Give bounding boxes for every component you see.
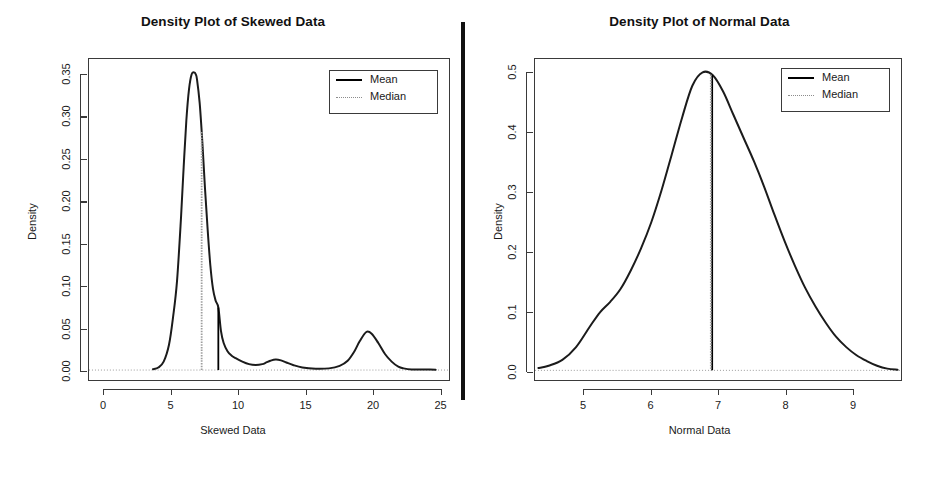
legend-item-mean: Mean — [330, 71, 437, 88]
y-tick-mark — [81, 286, 87, 287]
density-line — [538, 72, 897, 370]
y-tick-mark — [527, 192, 533, 193]
y-tick-label: 0.3 — [505, 177, 519, 207]
x-tick-label: 20 — [359, 399, 387, 411]
x-tick-mark — [853, 389, 854, 395]
y-tick-label: 0.30 — [59, 101, 73, 131]
y-tick-label: 0.35 — [59, 59, 73, 89]
x-tick-label: 7 — [704, 399, 732, 411]
y-tick-label: 0.20 — [59, 186, 73, 216]
y-tick-label: 0.05 — [59, 314, 73, 344]
x-tick-mark — [651, 389, 652, 395]
legend-item-median: Median — [782, 86, 889, 103]
y-axis-line-normal — [526, 72, 527, 372]
x-tick-label: 10 — [224, 399, 252, 411]
legend-label-mean: Mean — [822, 72, 850, 83]
y-tick-label: 0.10 — [59, 271, 73, 301]
y-tick-mark — [81, 74, 87, 75]
x-tick-label: 8 — [772, 399, 800, 411]
y-tick-label: 0.0 — [505, 357, 519, 387]
y-tick-mark — [81, 201, 87, 202]
x-tick-mark — [441, 389, 442, 395]
x-tick-label: 9 — [839, 399, 867, 411]
x-tick-label: 6 — [637, 399, 665, 411]
legend-item-mean: Mean — [782, 69, 889, 86]
legend-label-median: Median — [822, 89, 858, 100]
y-tick-mark — [527, 72, 533, 73]
y-tick-mark — [527, 252, 533, 253]
y-tick-mark — [81, 159, 87, 160]
y-tick-mark — [81, 329, 87, 330]
x-axis-label-skewed: Skewed Data — [0, 424, 466, 436]
x-tick-mark — [786, 389, 787, 395]
y-tick-mark — [527, 312, 533, 313]
x-tick-mark — [238, 389, 239, 395]
y-tick-mark — [81, 371, 87, 372]
legend-swatch-mean-icon — [336, 75, 362, 85]
x-tick-mark — [306, 389, 307, 395]
y-tick-label: 0.5 — [505, 57, 519, 87]
legend-normal: Mean Median — [781, 68, 890, 112]
legend-swatch-mean-icon — [788, 73, 814, 83]
legend-label-median: Median — [370, 91, 406, 102]
x-axis-label-normal: Normal Data — [466, 424, 933, 436]
x-tick-mark — [718, 389, 719, 395]
x-tick-label: 0 — [89, 399, 117, 411]
y-tick-mark — [527, 132, 533, 133]
vertical-separator-bar — [461, 22, 465, 400]
x-axis-line-skewed — [103, 389, 441, 390]
y-tick-label: 0.00 — [59, 356, 73, 386]
page-title-normal: Density Plot of Normal Data — [466, 14, 933, 29]
x-tick-label: 25 — [427, 399, 455, 411]
legend-swatch-median-icon — [788, 90, 814, 100]
y-axis-line-skewed — [80, 74, 81, 372]
y-tick-label: 0.15 — [59, 229, 73, 259]
legend-item-median: Median — [330, 88, 437, 105]
x-tick-label: 15 — [292, 399, 320, 411]
y-tick-label: 0.2 — [505, 237, 519, 267]
x-tick-mark — [103, 389, 104, 395]
y-tick-mark — [527, 372, 533, 373]
page-title-skewed: Density Plot of Skewed Data — [0, 14, 466, 29]
x-tick-label: 5 — [157, 399, 185, 411]
y-axis-label-skewed: Density — [26, 203, 38, 240]
y-tick-mark — [81, 244, 87, 245]
y-tick-mark — [81, 116, 87, 117]
y-axis-label-normal: Density — [492, 203, 504, 240]
y-tick-label: 0.1 — [505, 297, 519, 327]
panel-skewed-data: Density Plot of Skewed Data Density Skew… — [0, 0, 466, 479]
density-plots-figure: Density Plot of Skewed Data Density Skew… — [0, 0, 933, 479]
y-tick-label: 0.25 — [59, 144, 73, 174]
density-line — [153, 72, 436, 369]
legend-label-mean: Mean — [370, 74, 398, 85]
x-tick-label: 5 — [569, 399, 597, 411]
x-tick-mark — [171, 389, 172, 395]
y-tick-label: 0.4 — [505, 117, 519, 147]
legend-skewed: Mean Median — [329, 70, 438, 114]
x-tick-mark — [373, 389, 374, 395]
x-tick-mark — [583, 389, 584, 395]
legend-swatch-median-icon — [336, 92, 362, 102]
